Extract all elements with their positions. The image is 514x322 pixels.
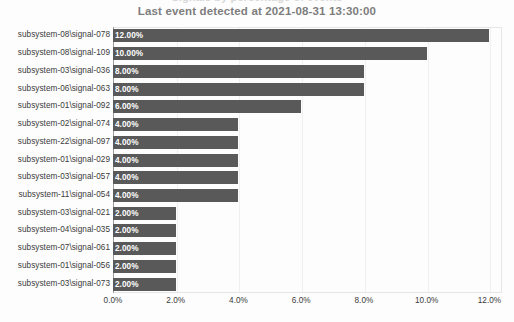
bar-row[interactable]: 12.00% bbox=[113, 29, 502, 42]
x-axis-tick-label: 0.0% bbox=[104, 296, 123, 305]
bar-row[interactable]: 2.00% bbox=[113, 207, 502, 220]
bar-value-label: 2.00% bbox=[115, 224, 138, 237]
bar-row[interactable]: 6.00% bbox=[113, 100, 502, 113]
bar-row[interactable]: 2.00% bbox=[113, 278, 502, 291]
bar-row[interactable]: 8.00% bbox=[113, 83, 502, 96]
x-axis-tick-label: 8.0% bbox=[355, 296, 374, 305]
bar-value-label: 6.00% bbox=[115, 100, 138, 113]
bar-value-label: 2.00% bbox=[115, 260, 138, 273]
y-axis-label: subsystem-03\signal-036 bbox=[0, 66, 110, 75]
bar-row[interactable]: 4.00% bbox=[113, 136, 502, 149]
bar-row[interactable]: 10.00% bbox=[113, 47, 502, 60]
bar-value-label: 4.00% bbox=[115, 154, 138, 167]
bar-value-label: 4.00% bbox=[115, 189, 138, 202]
y-axis-label: subsystem-08\signal-109 bbox=[0, 48, 110, 57]
y-axis-label: subsystem-03\signal-057 bbox=[0, 172, 110, 181]
bar[interactable] bbox=[113, 47, 427, 60]
y-axis-label: subsystem-01\signal-056 bbox=[0, 261, 110, 270]
bar-row[interactable]: 4.00% bbox=[113, 189, 502, 202]
bar[interactable] bbox=[113, 83, 364, 96]
bar-row[interactable]: 2.00% bbox=[113, 242, 502, 255]
y-axis-labels: subsystem-08\signal-078subsystem-08\sign… bbox=[0, 27, 110, 293]
y-axis-label: subsystem-01\signal-029 bbox=[0, 155, 110, 164]
bar-row[interactable]: 4.00% bbox=[113, 154, 502, 167]
x-axis-tick-label: 4.0% bbox=[229, 296, 248, 305]
bar-value-label: 8.00% bbox=[115, 83, 138, 96]
bar-value-label: 4.00% bbox=[115, 118, 138, 131]
y-axis-label: subsystem-11\signal-054 bbox=[0, 190, 110, 199]
x-axis-tick-label: 10.0% bbox=[415, 296, 438, 305]
y-axis-label: subsystem-22\signal-097 bbox=[0, 137, 110, 146]
bar-value-label: 4.00% bbox=[115, 171, 138, 184]
bar-value-label: 2.00% bbox=[115, 207, 138, 220]
bar-value-label: 10.00% bbox=[115, 47, 143, 60]
bar[interactable] bbox=[113, 100, 301, 113]
y-axis-label: subsystem-02\signal-074 bbox=[0, 119, 110, 128]
y-axis-label: subsystem-01\signal-092 bbox=[0, 101, 110, 110]
y-axis-label: subsystem-03\signal-073 bbox=[0, 279, 110, 288]
bar-series: 12.00%10.00%8.00%8.00%6.00%4.00%4.00%4.0… bbox=[113, 27, 502, 293]
bar-value-label: 2.00% bbox=[115, 278, 138, 291]
bar-value-label: 8.00% bbox=[115, 65, 138, 78]
y-axis-label: subsystem-06\signal-063 bbox=[0, 84, 110, 93]
bar-chart: Signals by percentage of events Last eve… bbox=[0, 0, 514, 322]
bar-value-label: 4.00% bbox=[115, 136, 138, 149]
y-axis-label: subsystem-04\signal-035 bbox=[0, 225, 110, 234]
bar-value-label: 12.00% bbox=[115, 29, 143, 42]
bar-row[interactable]: 2.00% bbox=[113, 224, 502, 237]
x-axis-tick-label: 2.0% bbox=[166, 296, 185, 305]
bar-row[interactable]: 4.00% bbox=[113, 171, 502, 184]
bar-value-label: 2.00% bbox=[115, 242, 138, 255]
bar[interactable] bbox=[113, 29, 489, 42]
y-axis-label: subsystem-03\signal-021 bbox=[0, 208, 110, 217]
bar-row[interactable]: 4.00% bbox=[113, 118, 502, 131]
y-axis-label: subsystem-08\signal-078 bbox=[0, 30, 110, 39]
x-axis-tick-label: 6.0% bbox=[292, 296, 311, 305]
x-axis-tick-label: 12.0% bbox=[478, 296, 501, 305]
x-axis-labels: 0.0%2.0%4.0%6.0%8.0%10.0%12.0% bbox=[113, 296, 502, 312]
chart-subtitle: Last event detected at 2021-08-31 13:30:… bbox=[0, 5, 514, 17]
bar-row[interactable]: 8.00% bbox=[113, 65, 502, 78]
y-axis-label: subsystem-07\signal-061 bbox=[0, 243, 110, 252]
bar-row[interactable]: 2.00% bbox=[113, 260, 502, 273]
bar[interactable] bbox=[113, 65, 364, 78]
